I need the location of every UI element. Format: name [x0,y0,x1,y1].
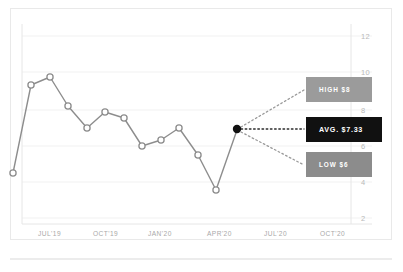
series-markers [10,74,219,193]
x-tick-jul20: JUL'20 [264,230,287,237]
highlight-data-point[interactable] [233,125,241,133]
callout-high[interactable]: HIGH $8 [306,77,372,102]
data-point [28,82,34,88]
data-point [84,125,90,131]
x-tick-oct19: OCT'19 [93,230,118,237]
series-line-price [13,77,237,190]
y-tick-10: 10 [361,68,370,77]
callout-leader-lines [241,90,304,165]
data-point [121,115,127,121]
callout-low[interactable]: LOW $6 [306,152,372,177]
x-tick-oct20: OCT'20 [320,230,345,237]
leader-line-high [241,90,304,127]
data-point [10,170,16,176]
leader-line-low [241,132,304,165]
x-tick-jul19: JUL'19 [38,230,61,237]
x-tick-jan20: JAN'20 [148,230,172,237]
x-tick-apr20: APR'20 [207,230,232,237]
chart-container: 12 10 8 6 4 2 JUL'19 OCT'19 JAN'20 APR'2… [0,0,403,272]
data-point [47,74,53,80]
data-point [65,103,71,109]
y-tick-6: 6 [361,142,365,151]
data-point [158,137,164,143]
y-tick-4: 4 [361,178,365,187]
callout-average[interactable]: AVG. $7.33 [306,117,382,142]
y-tick-2: 2 [361,214,365,223]
data-point [195,152,201,158]
data-point [102,109,108,115]
data-point [139,143,145,149]
y-tick-8: 8 [361,106,365,115]
x-axis-ticks: JUL'19 OCT'19 JAN'20 APR'20 JUL'20 OCT'2… [38,230,345,237]
data-point [176,125,182,131]
y-tick-12: 12 [361,32,370,41]
data-point [213,187,219,193]
